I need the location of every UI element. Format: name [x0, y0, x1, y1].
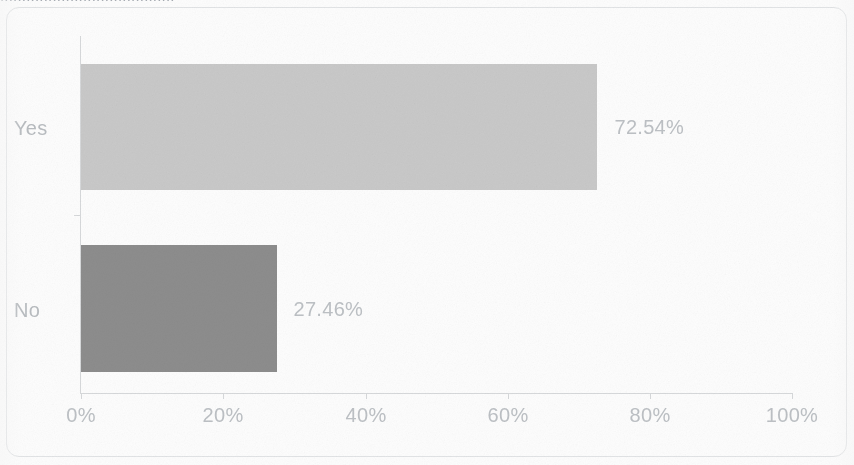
x-tick-label-60: 60% [488, 404, 529, 427]
x-axis-line [80, 393, 793, 394]
x-tick-mark-100 [792, 393, 793, 399]
category-label-no: No [14, 299, 72, 322]
scanned-page: ........................................… [0, 0, 854, 465]
x-tick-label-80: 80% [630, 404, 671, 427]
bar-value-label-no: 27.46% [294, 298, 364, 321]
x-tick-mark-0 [81, 393, 82, 399]
x-tick-label-0: 0% [66, 404, 96, 427]
y-tick-mark-divider [74, 215, 81, 216]
x-tick-mark-80 [650, 393, 651, 399]
x-tick-label-40: 40% [346, 404, 387, 427]
category-label-yes: Yes [14, 117, 72, 140]
x-tick-label-20: 20% [203, 404, 244, 427]
bar-value-label-yes: 72.54% [614, 116, 684, 139]
bar-chart: 0% 20% 40% 60% 80% 100% Yes No 72.54% 27… [0, 0, 854, 465]
x-tick-label-100: 100% [766, 404, 818, 427]
bar-no [81, 245, 277, 372]
x-tick-mark-40 [366, 393, 367, 399]
bar-yes [81, 64, 597, 190]
x-tick-mark-20 [223, 393, 224, 399]
x-tick-mark-60 [508, 393, 509, 399]
